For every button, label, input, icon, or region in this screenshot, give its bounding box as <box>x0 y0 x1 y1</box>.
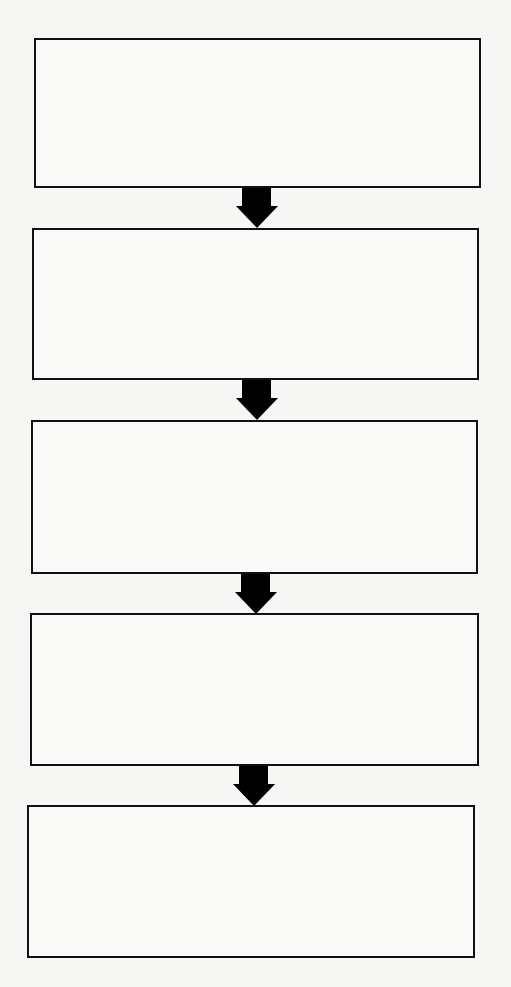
down-arrow-icon <box>234 574 278 616</box>
flow-box-3 <box>31 420 478 574</box>
flow-box-2-label <box>34 230 477 290</box>
flow-box-4 <box>30 613 479 766</box>
flow-box-3-label <box>33 422 476 482</box>
down-arrow-icon <box>235 380 279 422</box>
flow-box-5 <box>27 805 475 958</box>
down-arrow-icon <box>235 188 279 230</box>
flow-box-2 <box>32 228 479 380</box>
flow-box-5-label <box>29 807 473 867</box>
flow-box-1-label <box>36 40 479 100</box>
flow-box-4-label <box>32 615 477 675</box>
flow-box-1 <box>34 38 481 188</box>
down-arrow-icon <box>232 766 276 808</box>
